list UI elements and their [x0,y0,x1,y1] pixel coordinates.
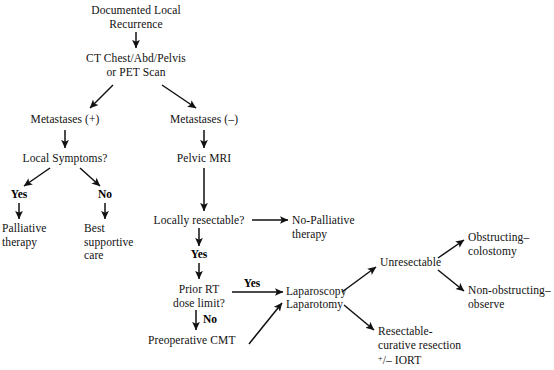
node-laparoscopy: Laparoscopy [286,285,347,299]
node-local-symptoms: Local Symptoms? [23,152,108,166]
flowchart-edges [0,0,554,370]
node-pelvic-mri: Pelvic MRI [177,152,231,166]
node-laparotomy: Laparotomy [286,298,343,312]
edge-label-priorrt-no: No [203,313,217,326]
node-locally-resectable: Locally resectable? [154,214,245,228]
node-no-palliative-therapy: No-Palliative therapy [292,214,355,241]
flowchart-canvas: Documented Local Recurrence CT Chest/Abd… [0,0,554,370]
edge-ct-to-metastases-pos [90,85,113,108]
node-preoperative-cmt: Preoperative CMT [148,334,236,348]
edge-lap-to-unresectable [342,267,376,292]
resectable-curative-text: Resectable- curative resection [378,325,461,351]
edge-ct-to-metastases-neg [162,85,196,108]
node-ct-chest-abd-pelvis-or-pet-scan: CT Chest/Abd/Pelvis or PET Scan [86,52,186,79]
node-prior-rt-dose-limit: Prior RT dose limit? [173,283,225,310]
edge-label-resectable-yes: Yes [191,248,208,261]
edge-label-symptoms-no: No [98,188,112,201]
edge-unresectable-to-nonobstructing [438,270,464,291]
edge-symptoms-to-yes [24,168,50,186]
edge-cmt-to-laparotomy [249,303,282,344]
node-palliative-therapy: Palliative therapy [2,222,46,249]
node-metastases-negative: Metastases (–) [170,113,238,127]
node-documented-local-recurrence: Documented Local Recurrence [91,4,180,31]
node-non-obstructing-observe: Non-obstructing– observe [468,284,551,311]
edge-unresectable-to-obstructing [438,240,464,258]
node-metastases-positive: Metastases (+) [31,113,100,127]
iort-label: /– IORT [383,354,422,366]
edge-symptoms-to-no [80,168,100,186]
node-obstructing-colostomy: Obstructing– colostomy [468,231,529,258]
node-unresectable: Unresectable [380,256,441,270]
edge-lap-to-resectable-curative [344,305,374,330]
node-resectable-curative-resection: Resectable- curative resection+/– IORT [378,325,461,368]
edge-label-symptoms-yes: Yes [11,188,28,201]
edge-label-priorrt-yes: Yes [244,277,261,290]
node-best-supportive-care: Best supportive care [84,222,134,263]
